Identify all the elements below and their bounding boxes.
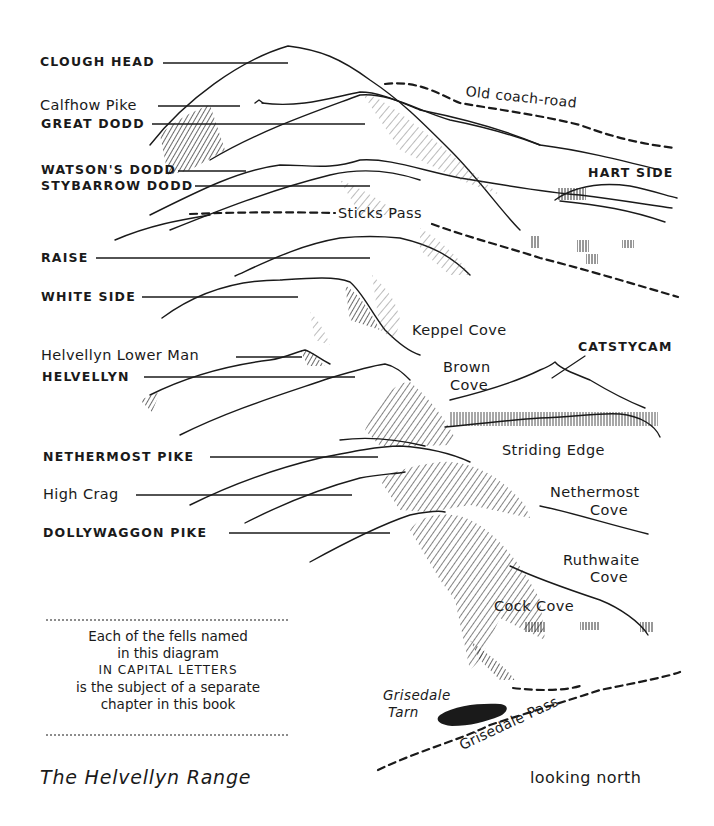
- note-line-2: in this diagram: [36, 645, 300, 662]
- label-helvellyn: HELVELLYN: [42, 371, 130, 384]
- label-stybarrow-dodd: STYBARROW DODD: [41, 180, 193, 193]
- label-striding-edge: Striding Edge: [502, 443, 605, 458]
- label-nethermost-pike: NETHERMOST PIKE: [43, 451, 194, 464]
- label-hart-side: HART SIDE: [588, 167, 673, 180]
- label-brown-cove-2: Cove: [450, 378, 488, 393]
- diagram-title: The Helvellyn Range: [40, 766, 251, 788]
- capital-letters-note: Each of the fells named in this diagram …: [36, 628, 300, 713]
- label-watsons-dodd: WATSON'S DODD: [41, 164, 176, 177]
- label-keppel-cove: Keppel Cove: [412, 323, 507, 338]
- note-line-5: chapter in this book: [36, 696, 300, 713]
- label-ruthwaite-cove-2: Cove: [590, 570, 628, 585]
- label-nethermost-cove-2: Cove: [590, 503, 628, 518]
- label-grisedale-tarn-2: Tarn: [388, 706, 419, 720]
- label-nethermost-cove-1: Nethermost: [550, 485, 640, 500]
- label-ruthwaite-cove-1: Ruthwaite: [563, 553, 639, 568]
- stybarrow-dodd-outline: [170, 171, 420, 230]
- raise-outline: [115, 215, 470, 276]
- label-brown-cove-1: Brown: [443, 360, 491, 375]
- label-grisedale-tarn-1: Grisedale: [383, 689, 451, 703]
- label-sticks-pass: Sticks Pass: [338, 206, 422, 221]
- label-dollywaggon-pike: DOLLYWAGGON PIKE: [43, 527, 207, 540]
- label-cock-cove: Cock Cove: [494, 599, 574, 614]
- label-great-dodd: GREAT DODD: [41, 118, 145, 131]
- label-high-crag: High Crag: [43, 487, 119, 502]
- label-calfhow-pike: Calfhow Pike: [40, 98, 137, 113]
- catstycam-leader: [552, 356, 585, 378]
- note-line-3: IN CAPITAL LETTERS: [36, 662, 300, 679]
- label-white-side: WHITE SIDE: [41, 291, 136, 304]
- label-catstycam: CATSTYCAM: [578, 341, 673, 354]
- helvellyn-range-diagram: CLOUGH HEAD Calfhow Pike GREAT DODD WATS…: [0, 0, 714, 826]
- label-raise: RAISE: [41, 252, 89, 265]
- orientation-label: looking north: [530, 768, 641, 787]
- note-line-1: Each of the fells named: [36, 628, 300, 645]
- label-helvellyn-lower-man: Helvellyn Lower Man: [41, 348, 199, 363]
- note-line-4: is the subject of a separate: [36, 679, 300, 696]
- label-clough-head: CLOUGH HEAD: [40, 56, 155, 69]
